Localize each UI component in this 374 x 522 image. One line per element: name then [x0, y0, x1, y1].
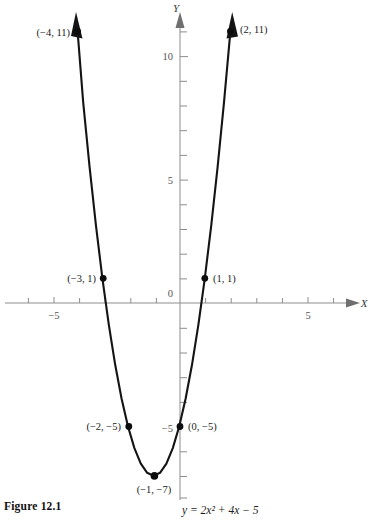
x-axis-arrowhead [346, 299, 360, 308]
x-tick-label-5: 5 [305, 310, 310, 321]
y-axis-arrowhead [176, 12, 185, 28]
curve-right-arrowhead [227, 12, 239, 39]
point-label-neg1-neg7: (−1, −7) [137, 484, 172, 496]
point-label-neg2-neg5: (−2, −5) [86, 421, 121, 433]
figure-container: Y X 10 5 0 −5 −5 5 (−4, 11) (2, 11) (−3,… [0, 0, 374, 522]
x-axis-ticks [28, 297, 333, 303]
parabola-curve [78, 31, 231, 476]
point-label-1-1: (1, 1) [213, 273, 236, 285]
equation-annotation: y = 2x² + 4x − 5 [181, 504, 259, 517]
point-marker-neg2-neg5 [125, 423, 132, 430]
point-label-2-11: (2, 11) [240, 24, 268, 36]
point-label-neg4-11: (−4, 11) [36, 27, 70, 39]
point-marker-2-11 [227, 28, 234, 35]
point-marker-0-neg5 [177, 423, 184, 430]
y-tick-label-0: 0 [168, 288, 173, 299]
point-label-neg3-1: (−3, 1) [67, 273, 96, 285]
point-marker-1-1 [201, 275, 208, 282]
y-tick-label-5: 5 [168, 175, 173, 186]
point-marker-neg4-11 [74, 28, 81, 35]
marked-points-group [74, 28, 234, 480]
x-axis-label: X [360, 297, 369, 309]
figure-caption: Figure 12.1 [4, 500, 62, 512]
parabola-plot: Y X 10 5 0 −5 −5 5 (−4, 11) (2, 11) (−3,… [0, 0, 374, 522]
y-tick-label-minus5: −5 [162, 423, 173, 434]
point-marker-neg3-1 [100, 275, 107, 282]
point-marker-neg1-neg7 [151, 472, 159, 480]
y-tick-label-10: 10 [163, 51, 174, 62]
x-tick-label-minus5: −5 [48, 310, 59, 321]
point-label-0-neg5: (0, −5) [188, 421, 217, 433]
y-axis-label: Y [173, 2, 181, 14]
